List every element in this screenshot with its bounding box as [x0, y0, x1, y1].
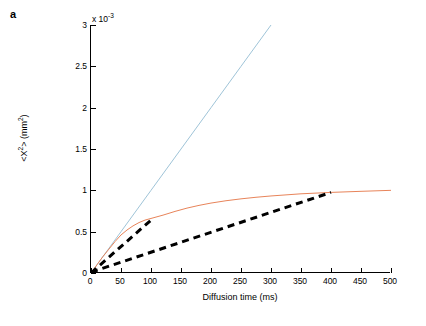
x-axis-title: Diffusion time (ms): [90, 292, 390, 302]
x-tick: [271, 268, 272, 273]
series-free-diffusion: [91, 25, 271, 273]
x-tick: [331, 268, 332, 273]
x-tick: [391, 268, 392, 273]
x-tick-label: 0: [88, 276, 93, 286]
x-tick: [361, 268, 362, 273]
y-axis-title: <X2> (mm2): [17, 78, 29, 198]
y-axis-exponent-label: x 10-3: [92, 12, 114, 24]
x-tick-label: 200: [203, 276, 217, 286]
x-tick: [211, 268, 212, 273]
figure-panel: a x 10-3 050100150200250300350400450500 …: [0, 0, 426, 326]
y-tick-label: 2.5: [75, 61, 87, 71]
y-tick: [91, 66, 96, 67]
y-tick: [91, 25, 96, 26]
series-short-time-tangent: [91, 217, 154, 273]
y-axis-exponent-base: x 10: [92, 14, 108, 24]
x-tick-label: 300: [263, 276, 277, 286]
x-tick-label: 150: [173, 276, 187, 286]
x-tick: [241, 268, 242, 273]
chart-curves: [91, 25, 391, 273]
x-tick-label: 450: [353, 276, 367, 286]
y-tick: [91, 232, 96, 233]
series-long-time-tangent: [91, 192, 331, 272]
y-tick: [91, 190, 96, 191]
y-axis-tick-labels: 00.511.522.53: [55, 18, 87, 280]
x-tick: [181, 268, 182, 273]
y-tick-label: 0: [82, 268, 87, 278]
x-tick-label: 500: [383, 276, 397, 286]
plot-area: [90, 25, 390, 273]
y-tick-label: 1: [82, 185, 87, 195]
x-tick: [151, 268, 152, 273]
x-tick-label: 250: [233, 276, 247, 286]
x-tick-label: 50: [115, 276, 124, 286]
x-tick-label: 350: [293, 276, 307, 286]
y-tick-label: 1.5: [75, 144, 87, 154]
x-axis-tick-labels: 050100150200250300350400450500: [90, 276, 390, 290]
plot-inner: [91, 25, 390, 272]
y-tick-label: 3: [82, 20, 87, 30]
x-tick-label: 400: [323, 276, 337, 286]
y-tick-label: 2: [82, 103, 87, 113]
x-tick-label: 100: [143, 276, 157, 286]
x-tick: [121, 268, 122, 273]
panel-label: a: [10, 8, 16, 20]
x-tick: [301, 268, 302, 273]
y-tick: [91, 273, 96, 274]
y-axis-exponent-power: -3: [108, 12, 114, 19]
y-tick-label: 0.5: [75, 227, 87, 237]
y-tick: [91, 149, 96, 150]
y-tick: [91, 108, 96, 109]
